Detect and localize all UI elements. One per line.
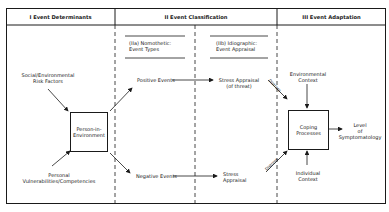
node-social-risk-factors: Social/Environmental Risk Factors <box>14 72 82 84</box>
iia-subtitle: Event Types <box>129 46 171 52</box>
env-line2: Context <box>286 77 330 83</box>
node-environmental-context: Environmental Context <box>286 71 330 83</box>
personal-line2: Vulnerabilities/Competencies <box>14 178 104 184</box>
coping-line2: Processes <box>296 130 321 136</box>
header-event-determinants: I Event Determinants <box>6 8 115 25</box>
node-personal-vulnerabilities: Personal Vulnerabilities/Competencies <box>14 172 104 184</box>
level-line3: Symptomatology <box>334 134 386 140</box>
node-level-of-symptomatology: Level of Symptomatology <box>334 122 386 140</box>
node-stress-appraisal: Stress Appraisal <box>223 171 246 183</box>
social-line2: Risk Factors <box>14 78 82 84</box>
header-event-adaptation: III Event Adaptation <box>277 8 386 25</box>
person-line2: Environment <box>73 132 105 138</box>
node-positive-events: Positive Events <box>137 77 175 83</box>
node-individual-context: Individual Context <box>290 170 326 182</box>
indiv-line2: Context <box>290 176 326 182</box>
node-coping-processes: Coping Processes <box>288 110 329 150</box>
stress-threat-line2: (of threat) <box>214 83 264 89</box>
node-person-in-environment: Person-in- Environment <box>70 112 108 152</box>
iib-subtitle: Event Appraisal <box>216 46 257 52</box>
header-event-classification: II Event Classification <box>115 8 277 25</box>
node-stress-appraisal-threat: Stress Appraisal (of threat) <box>214 77 264 89</box>
subheader-iia: (IIa) Nomothetic: Event Types <box>129 40 171 52</box>
node-negative-events: Negative Events <box>136 173 177 179</box>
subheader-iib: (IIb) Idiographic: Event Appraisal <box>216 40 257 52</box>
stress-line2: Appraisal <box>223 177 246 183</box>
